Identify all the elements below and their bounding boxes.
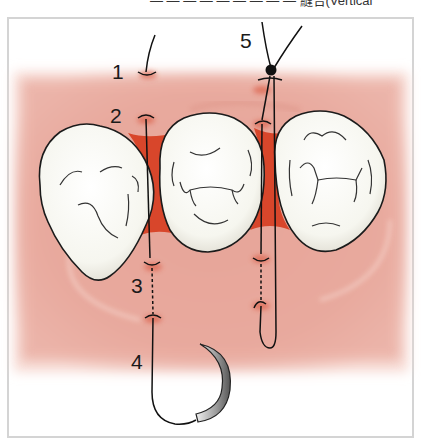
step-label-5: 5: [240, 29, 252, 52]
suture-diagram: 1 2 3 4 5: [0, 0, 421, 444]
tooth-middle: [160, 113, 265, 252]
step-label-1: 1: [112, 60, 124, 83]
step-label-4: 4: [131, 350, 143, 373]
suture-knot: [266, 65, 277, 76]
step-label-3: 3: [131, 274, 143, 297]
step-label-2: 2: [110, 104, 122, 127]
